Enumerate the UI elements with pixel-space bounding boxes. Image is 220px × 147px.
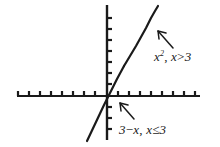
graph-canvas [0,0,220,147]
quadratic-label-bound: 3 [185,49,192,64]
linear-label-bound: 3 [159,122,166,137]
quadratic-branch-label: x2, x>3 [154,50,191,63]
piecewise-function-figure: x2, x>3 3−x, x≤3 [0,0,220,147]
linear-branch-label: 3−x, x≤3 [119,123,166,136]
quadratic-branch-curve [124,6,158,66]
arrow-to-quadratic-branch [158,31,173,48]
quadratic-label-relation: > [177,49,185,64]
arrow-to-linear-branch [120,103,134,119]
linear-label-constant: 3 [119,122,126,137]
